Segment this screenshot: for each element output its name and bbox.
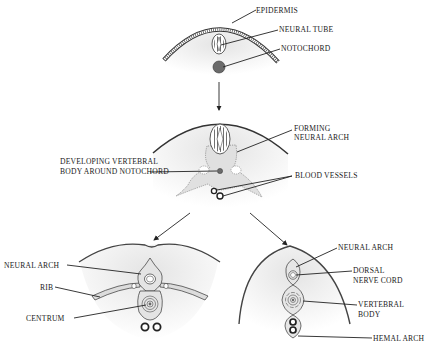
- label-developing-2: BODY AROUND NOTOCHORD: [60, 167, 169, 176]
- label-dorsal-1: DORSAL: [353, 266, 385, 275]
- label-dorsal-2: NERVE CORD: [353, 276, 403, 285]
- stage-2-notochord: [217, 168, 222, 173]
- blood-vessel-2: [217, 193, 223, 199]
- label-blood-vessels: BLOOD VESSELS: [295, 171, 358, 180]
- label-forming-2: NEURAL ARCH: [294, 133, 350, 142]
- stage-1-embryo-section: [164, 10, 280, 75]
- label-rib: RIB: [40, 283, 53, 292]
- label-hemal-arch: HEMAL ARCH: [373, 334, 425, 343]
- label-notochord: NOTOCHORD: [281, 44, 331, 53]
- arrow-to-left: [154, 213, 190, 240]
- vessel-left-2: [153, 323, 160, 330]
- label-neural-arch-right: NEURAL ARCH: [338, 243, 394, 252]
- arrow-to-right: [250, 213, 287, 245]
- label-neural-tube: NEURAL TUBE: [279, 25, 333, 34]
- stage-2-embryo-section: [150, 124, 292, 208]
- label-neural-arch-left: NEURAL ARCH: [4, 261, 60, 270]
- label-centrum: CENTRUM: [26, 314, 65, 323]
- vessel-left-1: [141, 323, 148, 330]
- label-forming-1: FORMING: [294, 124, 331, 133]
- label-developing-1: DEVELOPING VERTEBRAL: [60, 157, 158, 166]
- blood-vessel-1: [211, 188, 216, 193]
- label-vertebral-2: BODY: [358, 310, 381, 319]
- label-vertebral-1: VERTEBRAL: [358, 300, 404, 309]
- stage-3-left-section: [55, 244, 220, 340]
- label-epidermis: EPIDERMIS: [256, 6, 298, 15]
- stage-3-right-section: [239, 246, 372, 338]
